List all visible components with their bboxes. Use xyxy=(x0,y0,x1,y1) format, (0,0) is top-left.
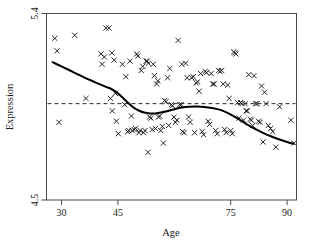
data-point xyxy=(262,90,267,95)
data-point xyxy=(244,108,249,113)
data-point xyxy=(225,82,230,87)
data-point xyxy=(56,120,61,125)
data-point xyxy=(181,130,186,135)
data-point xyxy=(273,145,278,150)
data-point xyxy=(179,62,184,67)
data-point xyxy=(129,113,134,118)
data-point xyxy=(188,120,193,125)
data-point xyxy=(52,36,57,41)
data-point xyxy=(114,119,119,124)
data-points-layer xyxy=(52,25,296,155)
data-point xyxy=(257,120,262,125)
data-point xyxy=(191,74,196,79)
data-point xyxy=(259,83,264,88)
data-point xyxy=(160,124,165,129)
data-point xyxy=(288,118,293,123)
data-point xyxy=(112,58,117,63)
data-point xyxy=(122,102,127,107)
data-point xyxy=(175,38,180,43)
x-tick-label: 75 xyxy=(226,207,236,218)
data-point xyxy=(174,118,179,123)
x-tick-label: 45 xyxy=(113,207,123,218)
data-point xyxy=(72,33,77,38)
expression-vs-age-chart: 30457590 4.55.4 Age Expression xyxy=(0,0,309,243)
x-axis-title: Age xyxy=(162,227,180,238)
x-tick-label: 90 xyxy=(282,207,292,218)
scatter-plot-figure: 30457590 4.55.4 Age Expression xyxy=(0,0,309,243)
y-axis-ticks: 4.55.4 xyxy=(29,7,47,206)
data-point xyxy=(246,72,251,77)
data-point xyxy=(251,73,256,78)
data-point xyxy=(108,96,113,101)
data-point xyxy=(221,81,226,86)
data-point xyxy=(148,116,153,121)
x-axis-ticks: 30457590 xyxy=(57,200,293,218)
data-point xyxy=(116,131,121,136)
data-point xyxy=(277,104,282,109)
y-tick-label: 4.5 xyxy=(29,194,40,207)
x-tick-label: 30 xyxy=(57,207,67,218)
data-point xyxy=(197,89,202,94)
data-point xyxy=(260,139,265,144)
data-point xyxy=(227,96,232,101)
data-point xyxy=(185,75,190,80)
data-point xyxy=(152,73,157,78)
data-point xyxy=(192,130,197,135)
data-point xyxy=(135,53,140,58)
data-point xyxy=(102,54,107,59)
data-point xyxy=(165,75,170,80)
data-point xyxy=(195,79,200,84)
data-point xyxy=(145,150,150,155)
data-point xyxy=(161,140,166,145)
data-point xyxy=(106,25,111,30)
data-point xyxy=(110,108,115,113)
data-point xyxy=(268,126,273,131)
data-point xyxy=(139,68,144,73)
data-point xyxy=(204,70,209,75)
y-tick-label: 5.4 xyxy=(29,7,40,20)
data-point xyxy=(270,129,275,134)
data-point xyxy=(167,66,172,71)
data-point xyxy=(219,68,224,73)
data-point xyxy=(186,115,191,120)
y-axis-title: Expression xyxy=(4,83,15,130)
data-point xyxy=(127,59,132,64)
data-point xyxy=(183,61,188,66)
data-point xyxy=(54,48,59,53)
data-point xyxy=(266,123,271,128)
data-point xyxy=(146,61,151,66)
data-point xyxy=(123,74,128,79)
data-point xyxy=(140,64,145,69)
data-point xyxy=(245,108,250,113)
data-point xyxy=(166,123,171,128)
data-point xyxy=(120,62,125,67)
data-point xyxy=(83,96,88,101)
data-point xyxy=(151,62,156,67)
data-point xyxy=(209,71,214,76)
data-point xyxy=(109,50,114,55)
data-point xyxy=(158,128,163,133)
data-point xyxy=(100,62,105,67)
data-point xyxy=(142,128,147,133)
